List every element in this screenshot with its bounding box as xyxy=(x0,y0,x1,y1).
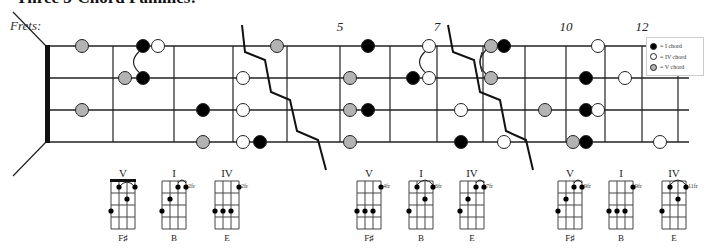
chord-name: F♯ xyxy=(349,233,389,243)
chord-name: B xyxy=(601,233,641,243)
slide-arc-2 xyxy=(420,50,428,74)
strings xyxy=(46,46,689,142)
chord-name: B xyxy=(401,233,441,243)
black-dot-icon xyxy=(650,43,657,50)
fret-position: 4fr xyxy=(383,183,390,189)
fret-position: 11fr xyxy=(688,183,698,189)
fret-position: 9fr xyxy=(635,183,642,189)
fret-position: 9fr xyxy=(584,183,591,189)
legend-label: = IV chord xyxy=(660,54,686,60)
headstock-line-top xyxy=(13,12,46,46)
chord-grid xyxy=(103,177,143,233)
chord-name: E xyxy=(452,233,492,243)
frets xyxy=(113,46,678,142)
nut xyxy=(45,45,50,143)
fret-position: 2fr xyxy=(241,183,248,189)
chord-name: F♯ xyxy=(550,233,590,243)
chord-name: B xyxy=(154,233,194,243)
fret-position: 6fr xyxy=(435,183,442,189)
note-dots xyxy=(76,40,667,149)
headstock-line-bottom xyxy=(13,142,46,176)
slide-arc-1 xyxy=(134,50,142,74)
white-dot-icon xyxy=(650,53,657,60)
fret-position: 2fr xyxy=(188,183,195,189)
fret-position: 7fr xyxy=(486,183,493,189)
legend-item-i-chord: = I chord xyxy=(650,41,700,52)
zigzag-separator-1 xyxy=(242,25,326,170)
legend-item-iv-chord: = IV chord xyxy=(650,52,700,63)
legend-label: = V chord xyxy=(660,64,684,70)
chord-name: F♯ xyxy=(103,233,143,243)
legend: = I chord = IV chord = V chord xyxy=(646,37,704,76)
legend-label: = I chord xyxy=(660,43,682,49)
legend-item-v-chord: = V chord xyxy=(650,62,700,73)
gray-dot-icon xyxy=(650,64,657,71)
chord-name: E xyxy=(654,233,694,243)
chord-name: E xyxy=(207,233,247,243)
